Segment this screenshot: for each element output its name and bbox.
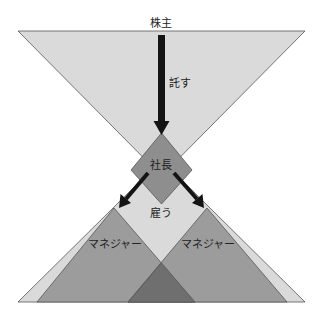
hourglass-diagram: 株主 託す 社長 雇う マネジャー マネジャー [0,0,325,324]
manager-right-label: マネジャー [181,239,235,250]
entrust-label: 託す [169,78,191,89]
manager-left-label: マネジャー [88,239,142,250]
hire-label: 雇う [150,208,172,219]
president-label: 社長 [150,160,172,171]
shareholders-label: 株主 [150,18,172,29]
